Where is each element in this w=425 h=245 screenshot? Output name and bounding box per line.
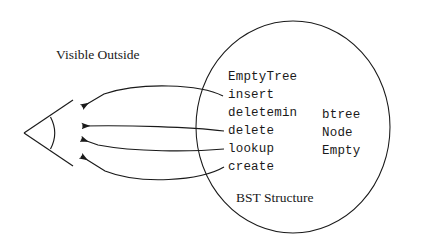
arrow-insert <box>82 86 223 107</box>
arrow-lookup <box>81 139 224 151</box>
type-node: Node <box>322 124 361 142</box>
operation-deletemin: deletemin <box>228 104 297 122</box>
bst-structure-caption: BST Structure <box>236 191 313 205</box>
viewer-wedge-icon <box>24 100 73 166</box>
operation-insert: insert <box>228 86 297 104</box>
bst-structure-diagram: Visible Outside EmptyTree insert deletem… <box>0 0 425 245</box>
visible-outside-label: Visible Outside <box>56 48 140 62</box>
arrow-create <box>81 156 224 180</box>
operation-emptytree: EmptyTree <box>228 68 297 86</box>
diagram-canvas <box>0 0 425 245</box>
operation-delete: delete <box>228 122 297 140</box>
type-btree: btree <box>322 106 361 124</box>
type-empty: Empty <box>322 142 361 160</box>
internal-types-list: btree Node Empty <box>322 106 361 160</box>
operation-lookup: lookup <box>228 140 297 158</box>
exported-operations-list: EmptyTree insert deletemin delete lookup… <box>228 68 297 176</box>
viewer-arc-icon <box>51 117 55 149</box>
operation-create: create <box>228 158 297 176</box>
arrow-delete <box>82 126 224 131</box>
